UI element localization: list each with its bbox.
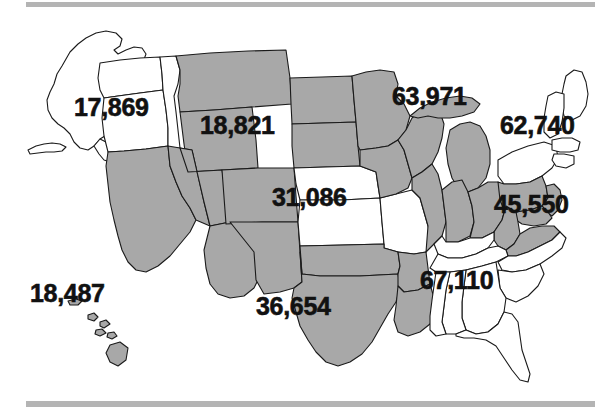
state-oklahoma xyxy=(300,244,400,276)
label-south-central: 36,654 xyxy=(256,294,331,319)
state-hawaii xyxy=(68,299,128,366)
state-connecticut-rhode-island xyxy=(552,154,574,168)
state-north-dakota xyxy=(290,76,356,124)
state-south-dakota xyxy=(292,122,360,168)
label-new-england: 62,740 xyxy=(500,113,575,138)
label-pacific-northwest: 17,869 xyxy=(74,95,149,120)
label-great-lakes: 63,971 xyxy=(392,84,467,109)
state-new-york xyxy=(498,142,558,184)
alaska-aleutian-chain xyxy=(28,143,66,154)
label-northern-plains: 18,821 xyxy=(200,113,275,138)
state-massachusetts xyxy=(552,138,580,152)
figure-canvas: 17,869 18,821 31,086 63,971 62,740 45,55… xyxy=(0,0,608,419)
label-central-plains: 31,086 xyxy=(272,185,347,210)
label-southeast: 67,110 xyxy=(420,268,493,293)
state-montana xyxy=(176,50,292,112)
label-pacific-islands: 18,487 xyxy=(30,281,105,306)
label-mid-atlantic: 45,550 xyxy=(494,192,569,217)
